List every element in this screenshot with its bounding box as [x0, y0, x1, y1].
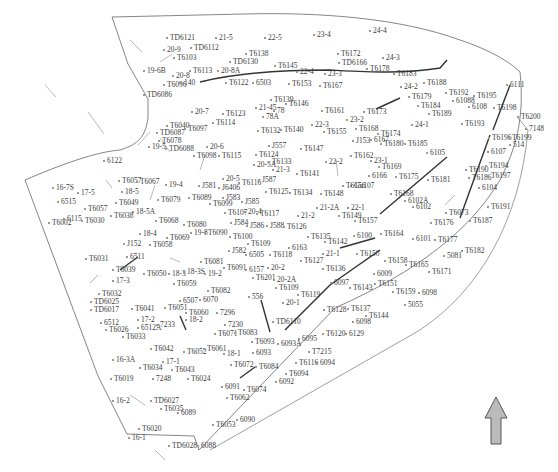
- feature-label: J581: [198, 182, 216, 190]
- feature-label: T6081: [200, 258, 224, 266]
- feature-label: 24-4: [369, 27, 387, 35]
- feature-label: T6103: [173, 54, 197, 62]
- feature-label: T6127: [300, 257, 324, 265]
- north-arrow-icon: [483, 396, 509, 446]
- feature-label: T6175: [395, 173, 419, 181]
- feature-label: 6101: [412, 235, 431, 243]
- feature-label: J587: [258, 176, 276, 184]
- feature-label: T6109: [275, 284, 299, 292]
- feature-label: 16-7S: [52, 184, 74, 192]
- feature-label: T6128: [323, 306, 347, 314]
- feature-label: 6129: [345, 330, 364, 338]
- feature-label: 6089: [177, 409, 196, 417]
- feature-label: T6150: [356, 250, 380, 258]
- feature-label: 6111: [506, 81, 524, 89]
- feature-label: J6406: [218, 184, 240, 192]
- feature-label: 6107: [487, 148, 506, 156]
- feature-label: 6009: [373, 270, 392, 278]
- feature-label: T6058: [149, 241, 173, 249]
- feature-label: T6019: [110, 375, 134, 383]
- feature-label: T6193: [461, 120, 485, 128]
- feature-label: T6084: [255, 363, 279, 371]
- feature-label: 18-4: [139, 230, 157, 238]
- feature-label: TD6110: [272, 318, 301, 326]
- feature-label: 16-1: [128, 434, 146, 442]
- feature-label: T6109: [247, 240, 271, 248]
- feature-label: T6180: [380, 140, 404, 148]
- feature-label: 6097: [330, 279, 349, 287]
- feature-label: T6116: [295, 359, 318, 367]
- feature-label: 17-5: [77, 189, 95, 197]
- feature-label: J153: [352, 137, 370, 145]
- feature-label: 19-5: [148, 143, 166, 151]
- feature-label: 18-5A: [132, 208, 155, 216]
- feature-label: T6099: [209, 200, 233, 208]
- feature-label: 20-7: [191, 108, 209, 116]
- feature-label: 23-3: [324, 70, 342, 78]
- feature-label: 16-3A: [112, 356, 135, 364]
- feature-label: 18-3S: [183, 268, 205, 276]
- feature-label: T6168: [355, 125, 379, 133]
- feature-label: 6098: [418, 289, 437, 297]
- feature-label: T6148: [320, 190, 344, 198]
- feature-label: TD6112: [190, 44, 219, 52]
- feature-label: T6033: [122, 333, 146, 341]
- feature-label: T6200: [517, 113, 541, 121]
- feature-label: 21-2A: [316, 204, 339, 212]
- feature-label: 22-2: [325, 158, 343, 166]
- feature-label: 6105: [426, 149, 445, 157]
- feature-label: T6155: [323, 128, 347, 136]
- feature-label: TD6017: [90, 306, 119, 314]
- feature-label: T6182: [461, 247, 485, 255]
- feature-label: TD6166: [338, 59, 367, 67]
- feature-label: J582: [228, 247, 246, 255]
- feature-label: T6171: [428, 268, 452, 276]
- feature-label: J585: [241, 198, 259, 206]
- feature-label: 6098: [352, 318, 371, 326]
- feature-label: T6034: [139, 364, 163, 372]
- feature-label: T6059: [173, 280, 197, 288]
- feature-label: T6020: [138, 425, 162, 433]
- feature-label: T6115: [218, 152, 241, 160]
- feature-label: T6161: [321, 107, 345, 115]
- feature-label: T6039: [112, 266, 136, 274]
- feature-label: 20-8A: [217, 67, 240, 75]
- feature-label: 18-1: [223, 350, 241, 358]
- feature-label: 18-2: [185, 316, 203, 324]
- feature-label: 6115: [63, 215, 82, 223]
- feature-label: T6146: [285, 100, 309, 108]
- feature-label: T6123: [222, 110, 246, 118]
- feature-label: T6198: [493, 104, 517, 112]
- feature-label: T6194: [485, 162, 509, 170]
- feature-label: T7215: [308, 348, 332, 356]
- feature-label: 23-2: [346, 116, 364, 124]
- feature-label: 24-1: [411, 121, 429, 129]
- feature-label: 6093: [252, 349, 271, 357]
- feature-label: 24-3: [382, 54, 400, 62]
- feature-label: T6189: [428, 110, 452, 118]
- feature-label: T6177: [434, 236, 458, 244]
- feature-label: T6091: [223, 264, 247, 272]
- feature-label: T6031: [85, 255, 109, 263]
- feature-label: T6134: [289, 189, 313, 197]
- feature-label: 5055: [404, 301, 423, 309]
- feature-label: 20-1: [282, 299, 300, 307]
- feature-label: J557: [268, 142, 286, 150]
- feature-label: 24-2: [400, 83, 418, 91]
- feature-label: T6030: [81, 217, 105, 225]
- feature-label: T6118: [269, 251, 292, 259]
- feature-label: 514: [509, 141, 524, 149]
- feature-label: T6169: [378, 163, 402, 171]
- feature-label: T6117: [256, 210, 279, 218]
- feature-label: T6185: [404, 140, 428, 148]
- feature-label: T6159: [392, 288, 416, 296]
- feature-label: 6505: [245, 251, 264, 259]
- feature-label: 18-5: [121, 188, 139, 196]
- feature-label: T6179: [408, 93, 432, 101]
- feature-label: T6038: [110, 212, 134, 220]
- feature-label: 21-1: [322, 250, 340, 258]
- feature-label: T6079: [157, 196, 181, 204]
- feature-label: T6181: [427, 176, 451, 184]
- feature-label: 6070: [199, 296, 218, 304]
- feature-label: 7248: [152, 375, 171, 383]
